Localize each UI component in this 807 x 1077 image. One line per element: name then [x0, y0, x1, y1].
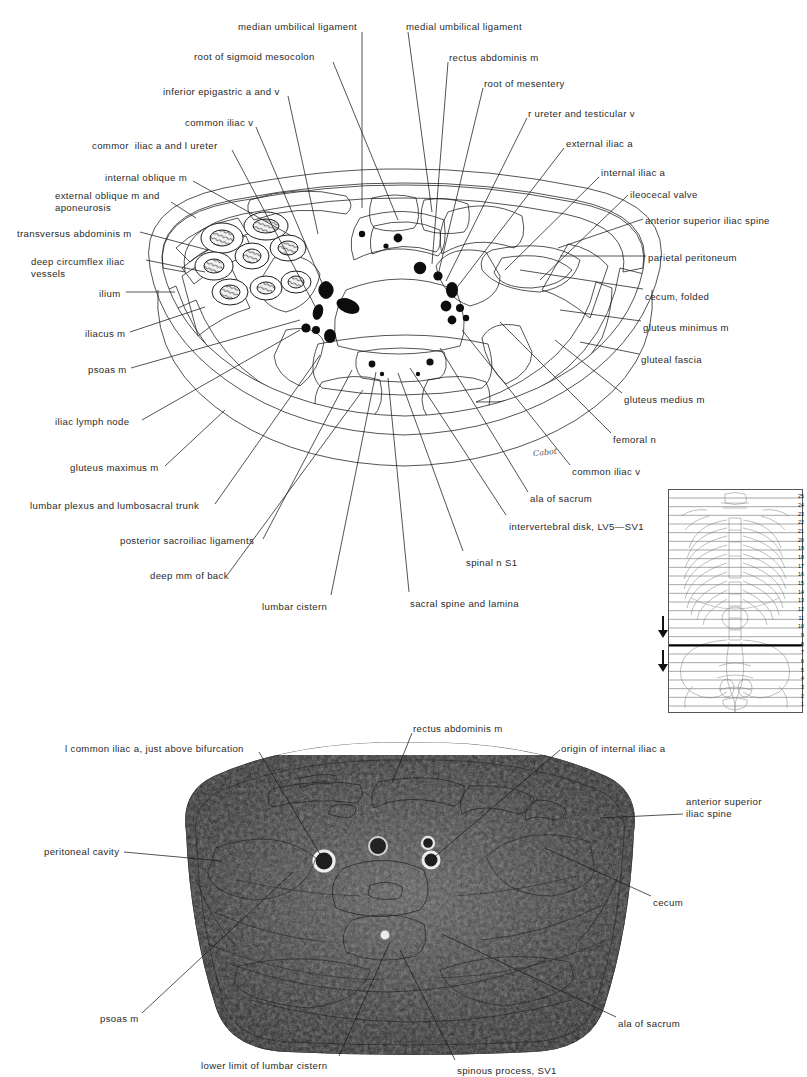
label-gluteus-medius-m: gluteus medius m: [624, 394, 705, 406]
level-number-14: 14: [798, 590, 804, 595]
label-cecum-folded: cecum, folded: [645, 291, 709, 303]
label-peritoneal-cavity: peritoneal cavity: [44, 846, 119, 858]
leader-intervertebral-disk: [410, 368, 506, 515]
leader-l-common-iliac-a-just-above-bifurcation: [259, 752, 324, 861]
leader-common-iliac-a-and-l-ureter: [232, 150, 317, 310]
level-number-24: 24: [798, 503, 804, 508]
label-sacral-spine-and-lamina: sacral spine and lamina: [410, 598, 519, 610]
leader-peritoneal-cavity: [124, 852, 222, 861]
leader-lumbar-cistern: [331, 372, 376, 595]
level-number-3: 3: [801, 685, 804, 690]
label-common-iliac-v-r: common iliac v: [572, 466, 640, 478]
level-number-22: 22: [798, 520, 804, 525]
label-deep-mm-of-back: deep mm of back: [150, 570, 229, 582]
leader-anterior-superior-iliac-spine-2: [600, 814, 683, 818]
label-internal-oblique-m: internal oblique m: [105, 172, 187, 184]
leader-femoral-n: [500, 322, 611, 433]
level-number-6: 6: [801, 659, 804, 664]
atlas-page: Cabot median umbilical ligamentmedial um…: [0, 0, 807, 1077]
level-number-1: 1: [801, 702, 804, 707]
leader-ala-of-sacrum: [440, 348, 528, 492]
label-deep-circumflex-iliac-vessels: deep circumflex iliac vessels: [31, 256, 125, 281]
leader-common-iliac-v: [256, 127, 325, 290]
skeleton-level-inset[interactable]: [668, 489, 803, 713]
label-anterior-superior-iliac-spine-2: anterior superior iliac spine: [686, 796, 762, 821]
level-number-8: 8: [801, 642, 804, 647]
level-number-7: 7: [801, 650, 804, 655]
leader-external-iliac-a: [455, 148, 564, 290]
leader-spinal-n-s1: [398, 373, 463, 551]
leader-gluteus-medius-m: [555, 340, 622, 393]
level-number-19: 19: [798, 546, 804, 551]
artist-signature: Cabot: [533, 447, 558, 458]
level-number-25: 25: [798, 494, 804, 499]
label-iliac-lymph-node: iliac lymph node: [55, 416, 129, 428]
label-r-ureter-and-testicular-v: r ureter and testicular v: [528, 108, 635, 120]
level-indicator-arrows: [655, 614, 671, 674]
label-femoral-n: femoral n: [613, 434, 656, 446]
level-number-2: 2: [801, 694, 804, 699]
label-ileocecal-valve: ileocecal valve: [630, 189, 698, 201]
label-anterior-superior-iliac-spine: anterior superior iliac spine: [645, 215, 770, 227]
label-spinous-process-sv1: spinous process, SV1: [457, 1065, 557, 1077]
level-number-4: 4: [801, 676, 804, 681]
label-lumbar-cistern: lumbar cistern: [262, 601, 327, 613]
level-number-13: 13: [798, 598, 804, 603]
leader-rectus-abdominis-m-2: [392, 733, 412, 783]
label-psoas-m: psoas m: [88, 364, 127, 376]
label-intervertebral-disk: intervertebral disk, LV5—SV1: [509, 521, 644, 533]
label-lower-limit-of-lumbar-cistern: lower limit of lumbar cistern: [201, 1060, 327, 1072]
label-medial-umbilical-ligament: medial umbilical ligament: [406, 21, 522, 33]
label-rectus-abdominis-m: rectus abdominis m: [449, 52, 538, 64]
leader-ala-of-sacrum-2: [442, 934, 616, 1017]
label-cecum-2: cecum: [653, 897, 683, 909]
leader-posterior-sacroiliac-ligaments: [263, 370, 352, 539]
leader-gluteal-fascia: [580, 342, 639, 354]
label-psoas-m-2: psoas m: [100, 1013, 139, 1025]
label-gluteus-maximus-m: gluteus maximus m: [70, 462, 159, 474]
level-number-17: 17: [798, 564, 804, 569]
leader-internal-iliac-a: [505, 177, 599, 270]
label-iliacus-m: iliacus m: [85, 328, 125, 340]
level-number-5: 5: [801, 668, 804, 673]
skeleton-inset-level-numbers: 2524232221201918171615141312111098765432…: [784, 489, 806, 711]
leader-sacral-spine-and-lamina: [388, 378, 409, 592]
label-common-iliac-v: common iliac v: [185, 117, 253, 129]
label-internal-iliac-a: internal iliac a: [601, 167, 665, 179]
leader-deep-circumflex-iliac-vessels: [146, 260, 205, 272]
label-gluteal-fascia: gluteal fascia: [641, 354, 702, 366]
level-number-16: 16: [798, 572, 804, 577]
leader-origin-of-internal-iliac-a: [431, 750, 560, 860]
label-ilium: ilium: [99, 288, 120, 300]
skeleton-inset-drawing: [669, 490, 802, 712]
label-median-umbilical-ligament: median umbilical ligament: [238, 21, 357, 33]
level-number-10: 10: [798, 624, 804, 629]
level-number-21: 21: [798, 529, 804, 534]
leader-r-ureter-and-testicular-v: [446, 118, 527, 281]
level-number-15: 15: [798, 581, 804, 586]
leader-rectus-abdominis-m: [432, 62, 448, 264]
leader-inferior-epigastric-a-and-v: [288, 96, 318, 234]
label-parietal-peritoneum: parietal peritoneum: [648, 252, 737, 264]
leader-lower-limit-of-lumbar-cistern: [339, 942, 390, 1056]
leader-ileocecal-valve: [540, 195, 628, 280]
level-number-11: 11: [798, 616, 804, 621]
label-root-of-sigmoid-mesocolon: root of sigmoid mesocolon: [194, 51, 315, 63]
label-rectus-abdominis-m-2: rectus abdominis m: [413, 723, 502, 735]
label-lumbar-plexus-and-lumbosacral-trunk: lumbar plexus and lumbosacral trunk: [30, 500, 199, 512]
label-origin-of-internal-iliac-a: origin of internal iliac a: [561, 743, 666, 755]
leader-spinous-process-sv1: [400, 950, 455, 1060]
leader-iliacus-m: [130, 307, 205, 332]
leader-iliac-lymph-node: [142, 330, 300, 420]
label-spinal-n-s1: spinal n S1: [466, 557, 517, 569]
label-ala-of-sacrum: ala of sacrum: [530, 493, 592, 505]
level-number-12: 12: [798, 607, 804, 612]
label-root-of-mesentery: root of mesentery: [484, 78, 565, 90]
label-inferior-epigastric-a-and-v: inferior epigastric a and v: [163, 86, 280, 98]
leader-transversus-abdominis-m: [140, 232, 208, 250]
leader-common-iliac-v-r: [462, 330, 570, 465]
leader-external-oblique-m-and-aponeurosis: [171, 202, 196, 218]
leader-psoas-m-2: [142, 872, 293, 1013]
level-number-20: 20: [798, 538, 804, 543]
leader-cecum-2: [545, 848, 651, 896]
